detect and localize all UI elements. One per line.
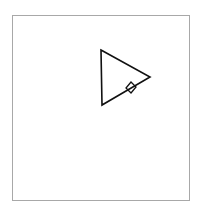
triangle-shape	[101, 50, 150, 105]
diagram-svg	[0, 0, 202, 213]
